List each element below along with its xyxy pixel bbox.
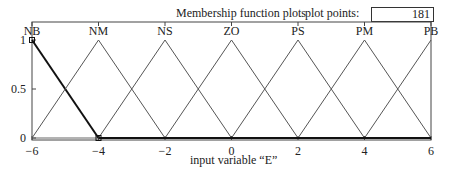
mf-curve-nm	[32, 40, 165, 138]
mf-label-nm: NM	[89, 24, 109, 38]
mf-label-ns: NS	[157, 24, 172, 38]
x-axis-label: input variable “E”	[190, 153, 277, 168]
mf-label-zo: ZO	[224, 24, 240, 38]
mf-curve-ns	[99, 40, 232, 138]
y-tick-label: 0	[20, 131, 26, 145]
x-tick-label: −2	[159, 144, 172, 158]
x-tick-label: 6	[428, 144, 434, 158]
mf-curve-ps	[232, 40, 365, 138]
x-tick-label: −4	[92, 144, 105, 158]
mf-curve-pm	[298, 40, 431, 138]
x-tick-label: −6	[26, 144, 39, 158]
mf-label-pm: PM	[356, 24, 374, 38]
mf-label-nb: NB	[24, 24, 41, 38]
y-tick-label: 0.5	[11, 82, 26, 96]
x-tick-label: 2	[295, 144, 301, 158]
mf-curve-zo	[165, 40, 298, 138]
x-tick-label: 4	[362, 144, 368, 158]
mf-label-pb: PB	[424, 24, 439, 38]
membership-function-chart[interactable]: −6−4−2024600.51NBNMNSZOPSPMPB	[0, 0, 452, 177]
mf-label-ps: PS	[291, 24, 304, 38]
